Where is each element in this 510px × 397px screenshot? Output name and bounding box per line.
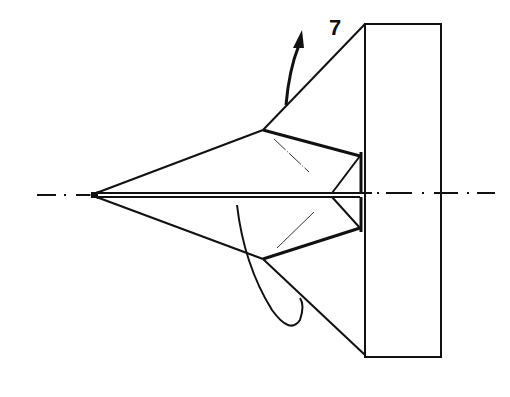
origami-diagram: [0, 0, 510, 397]
fold-arrow-icon: [286, 30, 304, 105]
rectangle-flap: [365, 24, 441, 357]
lower-thin-fold: [277, 212, 314, 248]
lower-outer-edge: [263, 259, 365, 355]
upper-thin-fold: [274, 139, 309, 172]
upper-outer-edge: [263, 24, 365, 130]
